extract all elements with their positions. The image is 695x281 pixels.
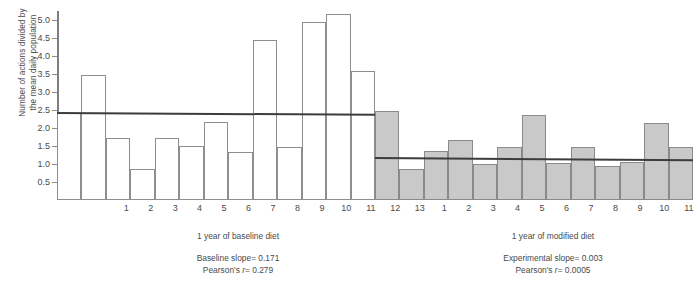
y-tick-label: 0.5 xyxy=(37,177,50,187)
x-tick-label: 11 xyxy=(366,203,375,213)
bar xyxy=(81,75,105,200)
stats-modified-slope: Experimental slope= 0.003 xyxy=(503,253,602,265)
x-axis-caption-baseline: 1 year of baseline diet xyxy=(197,231,279,241)
x-tick-label: 12 xyxy=(390,203,400,213)
x-tick-label: 9 xyxy=(319,203,324,213)
y-tick-label: 4.5 xyxy=(37,33,50,43)
x-tick-label: 2 xyxy=(148,203,153,213)
x-tick-label: 13 xyxy=(415,203,425,213)
stats-baseline-slope: Baseline slope= 0.171 xyxy=(197,253,280,265)
bar xyxy=(228,152,252,200)
bar xyxy=(473,164,497,200)
bar xyxy=(179,146,203,200)
x-tick-label: 8 xyxy=(295,203,300,213)
stats-modified-pearson: Pearson's r= 0.0005 xyxy=(503,265,602,277)
bar xyxy=(595,166,619,200)
x-axis-caption-modified: 1 year of modified diet xyxy=(512,231,594,241)
y-axis-title: Number of actions divided by the mean da… xyxy=(18,0,39,143)
bar xyxy=(277,147,301,200)
bar xyxy=(204,122,228,200)
stats-baseline-pearson-value: = 0.279 xyxy=(245,265,273,275)
bar xyxy=(130,169,154,200)
y-tick-label: 2.0 xyxy=(37,123,50,133)
x-tick-label: 5 xyxy=(222,203,227,213)
stats-modified-pearson-prefix: Pearson's xyxy=(516,265,555,275)
bar xyxy=(351,71,375,200)
bar xyxy=(497,147,521,200)
bar xyxy=(155,138,179,200)
bar xyxy=(253,40,277,200)
y-tick-label: 2.5 xyxy=(37,105,50,115)
bar xyxy=(375,111,399,200)
stats-baseline: Baseline slope= 0.171 Pearson's r= 0.279 xyxy=(197,253,280,276)
x-tick-label: 1 xyxy=(124,203,129,213)
x-tick-label: 6 xyxy=(246,203,251,213)
x-tick-label: 4 xyxy=(197,203,202,213)
bar xyxy=(644,123,668,200)
y-tick-label: 3.5 xyxy=(37,69,50,79)
x-tick-label: 2 xyxy=(466,203,471,213)
stats-baseline-pearson: Pearson's r= 0.279 xyxy=(197,265,280,277)
y-tick-label: 1.5 xyxy=(37,141,50,151)
x-tick-label: 3 xyxy=(491,203,496,213)
x-tick-label: 7 xyxy=(270,203,275,213)
bar xyxy=(448,140,472,200)
y-tick-mark xyxy=(52,110,57,111)
stats-modified-pearson-value: = 0.0005 xyxy=(558,265,591,275)
y-tick-mark xyxy=(52,20,57,21)
bar xyxy=(326,14,350,200)
x-tick-label: 9 xyxy=(637,203,642,213)
y-tick-label: 5.0 xyxy=(37,15,50,25)
x-tick-label: 4 xyxy=(515,203,520,213)
stats-baseline-pearson-prefix: Pearson's xyxy=(203,265,242,275)
y-axis-title-line1: Number of actions divided by xyxy=(18,0,29,143)
x-tick-label: 1 xyxy=(442,203,447,213)
x-tick-label: 5 xyxy=(540,203,545,213)
y-tick-mark xyxy=(52,92,57,93)
x-tick-label: 3 xyxy=(173,203,178,213)
bar xyxy=(546,163,570,200)
x-tick-label: 8 xyxy=(613,203,618,213)
y-tick-mark xyxy=(52,74,57,75)
bar xyxy=(106,138,130,200)
x-tick-label: 7 xyxy=(588,203,593,213)
bar xyxy=(620,162,644,200)
x-tick-label: 11 xyxy=(684,203,693,213)
bar xyxy=(669,147,693,200)
y-tick-label: 3.0 xyxy=(37,87,50,97)
y-tick-mark xyxy=(52,56,57,57)
bar xyxy=(571,147,595,200)
y-tick-label: 1.0 xyxy=(37,159,50,169)
y-tick-label: 4.0 xyxy=(37,51,50,61)
bar xyxy=(302,22,326,200)
y-tick-mark xyxy=(52,38,57,39)
chart-root: Number of actions divided by the mean da… xyxy=(0,0,695,281)
x-tick-label: 6 xyxy=(564,203,569,213)
x-tick-label: 10 xyxy=(659,203,669,213)
bar xyxy=(57,113,81,200)
bar xyxy=(399,169,423,200)
plot-area: 0.51.01.52.02.53.03.54.04.55.0 123456789… xyxy=(57,11,693,200)
stats-modified: Experimental slope= 0.003 Pearson's r= 0… xyxy=(503,253,602,276)
x-tick-label: 10 xyxy=(341,203,351,213)
